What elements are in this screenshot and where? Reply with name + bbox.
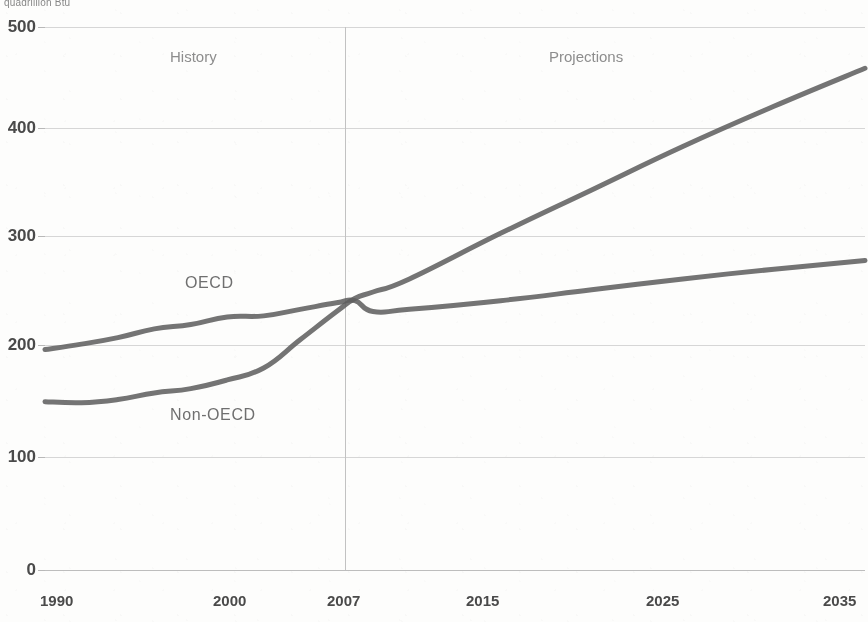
energy-consumption-line-chart: quadrillion Btu 500 400 300 200 100 0 19… — [0, 0, 868, 622]
oecd-series-line — [45, 260, 865, 349]
series-svg-layer — [0, 0, 868, 622]
non-oecd-series-line — [45, 68, 865, 403]
